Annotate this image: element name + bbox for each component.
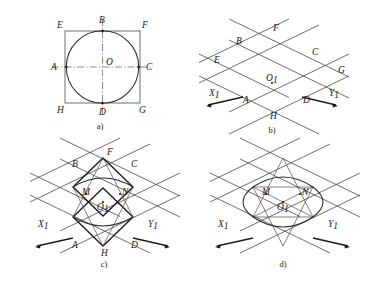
label-a-O: O [106,57,113,67]
label-c-B: B [72,159,78,169]
label-c-N: N [121,187,129,197]
label-b-C: C [312,47,319,57]
axis-c-y1-label: Y1 [148,219,158,231]
label-a-H: H [56,105,65,115]
label-c-A: A [71,240,78,250]
panel-c-grid-lines [30,138,180,253]
arc-top-c [73,178,133,187]
caption-c: c) [101,259,108,269]
axis-c-x1-label: X1 [37,219,49,231]
label-b-B: B [236,36,242,46]
label-b-H: H [269,111,278,121]
label-a-C: C [146,62,153,72]
label-b-E: E [213,55,220,65]
isometric-circle-figure: E B F A O C H D G a) [0,0,379,283]
axis-d-x1-line [217,238,253,246]
panel-d-grid-lines [210,138,360,253]
label-c-D: D [130,240,138,250]
axis-c-x1-line [37,238,73,246]
label-a-E: E [56,20,63,30]
panel-c: F B C M N O1 A D H X1 Y1 c) [30,138,180,269]
caption-d: d) [279,259,286,269]
panel-d: M N O1 X1 Y1 d) [210,138,360,269]
axis-b-y1-label: Y1 [329,88,339,100]
label-a-D: D [98,107,106,117]
axis-d-y1-line [313,238,348,246]
label-b-D: D [302,95,310,105]
arc-bottom-c [73,217,133,226]
label-b-F: F [272,23,279,33]
axis-d-y1-label: Y1 [328,219,338,231]
panel-d-axes: X1 Y1 [215,219,350,249]
label-c-C: C [131,159,138,169]
label-d-M: M [261,187,271,197]
caption-b: b) [268,125,275,135]
axis-c-y1-line [133,238,168,246]
label-a-F: F [141,20,148,30]
label-b-A: A [242,95,249,105]
label-c-H: H [100,248,109,258]
axis-d-x1-label: X1 [217,219,229,231]
label-c-F: F [106,147,113,157]
label-a-G: G [139,105,146,115]
axis-b-x1-label: X1 [208,88,220,100]
panel-a: E B F A O C H D G a) [50,15,153,131]
label-b-G: G [338,65,345,75]
panel-c-axes: X1 Y1 [35,219,170,249]
label-d-N: N [301,187,309,197]
panel-b: F B C E G O1 A D H X1 Y1 b) [199,19,349,135]
panel-b-labels: F B C E G O1 A D H [213,23,345,121]
figure-page: E B F A O C H D G a) [0,0,379,283]
label-a-A: A [50,62,57,72]
caption-a: a) [97,121,104,131]
axis-b-x1-line [208,97,243,105]
label-c-M: M [81,187,91,197]
label-a-B: B [99,15,105,25]
